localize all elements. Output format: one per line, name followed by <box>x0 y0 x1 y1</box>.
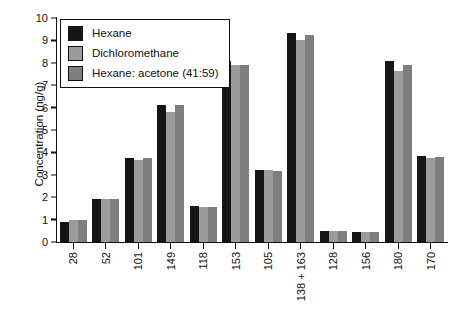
x-tick <box>415 243 448 249</box>
bar <box>403 65 412 242</box>
x-axis-label: 105 <box>263 252 274 270</box>
y-tick-mark <box>51 62 56 63</box>
legend-label-1: Dichloromethane <box>92 48 179 60</box>
x-tick <box>122 243 155 249</box>
y-tick-label: 9 <box>42 35 51 46</box>
x-axis-label: 149 <box>165 252 176 270</box>
bar-group <box>415 18 448 242</box>
bar <box>385 61 394 242</box>
series-0-swatch-icon <box>68 26 83 41</box>
x-label-cell: 180 <box>382 252 415 314</box>
bar <box>157 105 166 242</box>
bar <box>166 112 175 242</box>
bar <box>361 232 370 242</box>
bar-group <box>285 18 318 242</box>
x-label-cell: 52 <box>90 252 123 314</box>
bar <box>305 35 314 242</box>
y-tick-2: 2 <box>42 192 56 203</box>
y-tick-mark <box>51 40 56 41</box>
x-label-cell: 105 <box>252 252 285 314</box>
bar <box>329 231 338 242</box>
y-tick-0: 0 <box>42 237 56 248</box>
x-axis-label: 153 <box>230 252 241 270</box>
bar <box>296 40 305 242</box>
x-tick <box>155 243 188 249</box>
bar <box>370 232 379 242</box>
bar <box>394 71 403 242</box>
x-tick-mark <box>333 243 334 249</box>
x-tick-mark <box>268 243 269 249</box>
bar <box>426 158 435 242</box>
y-tick-mark <box>51 174 56 175</box>
bar <box>273 171 282 242</box>
bar <box>175 105 184 242</box>
bar-group <box>382 18 415 242</box>
y-tick-9: 9 <box>42 35 56 46</box>
x-tick <box>382 243 415 249</box>
y-tick-4: 4 <box>42 147 56 158</box>
y-tick-10: 10 <box>36 13 56 24</box>
bar <box>338 231 347 242</box>
bar <box>199 207 208 242</box>
x-tick-mark <box>105 243 106 249</box>
x-tick-mark <box>235 243 236 249</box>
x-axis-label: 180 <box>393 252 404 270</box>
x-axis-ticks <box>57 243 447 249</box>
bar <box>110 199 119 242</box>
x-label-cell: 101 <box>122 252 155 314</box>
y-tick-label: 1 <box>42 214 51 225</box>
x-axis-label: 118 <box>198 252 209 270</box>
y-tick-label: 8 <box>42 57 51 68</box>
bar <box>435 157 444 242</box>
x-tick-mark <box>365 243 366 249</box>
series-1-swatch-icon <box>68 46 83 61</box>
bar-group <box>252 18 285 242</box>
x-label-cell: 156 <box>350 252 383 314</box>
bar <box>240 65 249 242</box>
y-tick-label: 4 <box>42 147 51 158</box>
x-label-cell: 149 <box>155 252 188 314</box>
x-tick <box>317 243 350 249</box>
bar <box>231 65 240 242</box>
x-tick <box>252 243 285 249</box>
y-tick-mark <box>51 84 56 85</box>
legend-item-hexane-acetone: Hexane: acetone (41:59) <box>68 66 219 81</box>
y-tick-label: 6 <box>42 102 51 113</box>
bar-group <box>350 18 383 242</box>
x-label-cell: 153 <box>220 252 253 314</box>
x-tick <box>350 243 383 249</box>
y-tick-mark <box>51 219 56 220</box>
x-tick-mark <box>430 243 431 249</box>
y-tick-mark <box>51 196 56 197</box>
chart-legend: Hexane Dichloromethane Hexane: acetone (… <box>60 19 230 88</box>
x-axis-labels: 2852101149118153105138 + 163128156180170 <box>57 252 447 314</box>
y-tick-8: 8 <box>42 57 56 68</box>
y-tick-mark <box>51 152 56 153</box>
x-axis-label: 128 <box>328 252 339 270</box>
bar <box>92 199 101 242</box>
y-tick-label: 10 <box>36 13 51 24</box>
legend-item-hexane: Hexane <box>68 26 219 41</box>
y-tick-label: 0 <box>42 237 51 248</box>
bar <box>417 156 426 242</box>
x-axis-label: 52 <box>100 252 111 264</box>
x-label-cell: 170 <box>415 252 448 314</box>
y-tick-mark <box>51 129 56 130</box>
x-label-cell: 118 <box>187 252 220 314</box>
bar <box>255 170 264 242</box>
series-2-swatch-icon <box>68 66 83 81</box>
bar <box>190 206 199 242</box>
bar <box>352 232 361 242</box>
legend-item-dichloromethane: Dichloromethane <box>68 46 219 61</box>
x-tick <box>285 243 318 249</box>
x-label-cell: 128 <box>317 252 350 314</box>
bar <box>143 158 152 242</box>
x-tick-mark <box>300 243 301 249</box>
legend-label-2: Hexane: acetone (41:59) <box>92 68 219 80</box>
bar-group <box>317 18 350 242</box>
y-tick-1: 1 <box>42 214 56 225</box>
x-axis-label: 138 + 163 <box>295 252 306 301</box>
bar <box>125 158 134 242</box>
y-tick-3: 3 <box>42 169 56 180</box>
y-tick-5: 5 <box>42 125 56 136</box>
